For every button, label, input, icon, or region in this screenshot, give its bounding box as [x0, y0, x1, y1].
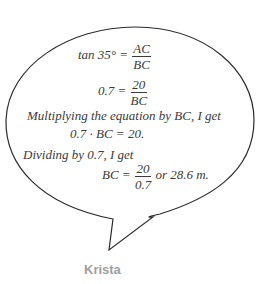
- equation-lhs: BC =: [102, 167, 131, 182]
- fraction: 200.7: [135, 162, 151, 191]
- speaker-name: Krista: [84, 262, 121, 277]
- numerator: AC: [132, 42, 151, 57]
- equation-product: 0.7 · BC = 20.: [70, 127, 144, 140]
- equation-rhs: or 28.6 m.: [155, 167, 208, 182]
- explanation-multiply: Multiplying the equation by BC, I get: [27, 109, 221, 122]
- equation-ratio: 0.7 = 20BC: [98, 78, 148, 107]
- fraction: 20BC: [131, 78, 148, 107]
- fraction: ACBC: [132, 42, 151, 71]
- equation-result: BC = 200.7 or 28.6 m.: [102, 162, 209, 191]
- denominator: BC: [131, 93, 148, 107]
- equation-lhs: tan 35° =: [78, 47, 128, 62]
- numerator: 20: [135, 162, 151, 177]
- denominator: BC: [132, 57, 151, 71]
- explanation-divide: Dividing by 0.7, I get: [23, 148, 133, 161]
- equation-lhs: 0.7 =: [98, 83, 126, 98]
- denominator: 0.7: [135, 177, 151, 191]
- equation-tan: tan 35° = ACBC: [78, 42, 152, 71]
- numerator: 20: [131, 78, 148, 93]
